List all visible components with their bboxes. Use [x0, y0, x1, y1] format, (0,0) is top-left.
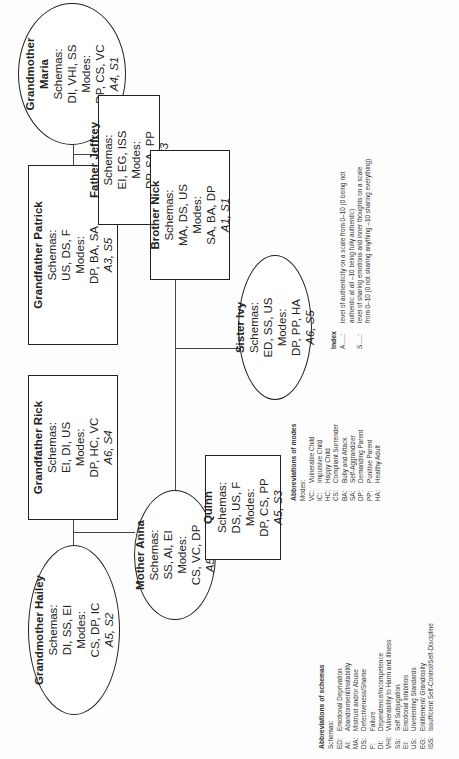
schemas-label: Schemas:: [46, 604, 60, 655]
score-value: A3, S5: [101, 238, 115, 273]
legend-modes: Abbreviations of modes Modes: VC:Vulnera…: [290, 351, 382, 501]
schemas-value: DI, SS, EI: [60, 605, 74, 656]
schemas-label: Schemas:: [45, 229, 59, 280]
legend-row: DS:Defectiveness/Shame: [360, 509, 368, 749]
legend-label: Entitlement/ Grandiosity: [419, 663, 427, 731]
modes-label: Modes:: [275, 309, 289, 347]
legend-label: Compliant Surrender: [332, 424, 340, 483]
member-name: Sister Ivy: [233, 302, 247, 353]
legend-row: AI:Abandonment/Instability: [344, 509, 352, 749]
modes-label: Modes:: [74, 611, 88, 649]
schemas-value: DI, VHI, SS: [65, 45, 79, 104]
modes-value: DP, CS, PP: [257, 478, 271, 537]
schemas-value: SS, AI, EI: [161, 530, 175, 579]
connector-children-ivy: [175, 348, 240, 349]
legend-abbr: MA:: [352, 731, 360, 749]
legend-row: SS:Self Subjugation: [394, 509, 402, 749]
legend-label: Happy Child: [324, 448, 332, 483]
legend-row: US:Unrelenting Standards: [410, 509, 418, 749]
legend-abbr: F:: [369, 731, 377, 749]
legend-abbr: VC:: [308, 483, 316, 501]
connector-patrick-maria: [73, 145, 74, 165]
legend-schemas-title: Abbreviations of schemas: [318, 509, 326, 749]
modes-value: DP, PP, HA: [289, 299, 303, 356]
legend-row: DP:Demanding Parent: [357, 351, 365, 501]
modes-value: DP, BA, SA: [87, 226, 101, 284]
modes-label: Modes:: [79, 55, 93, 93]
legend-row: BA:Bully and Attack: [341, 351, 349, 501]
schemas-value: US, DS, F: [59, 229, 73, 281]
schemas-value: ED, SS, US: [261, 297, 275, 357]
legend-abbr: EI:: [402, 731, 410, 749]
legend-row: CS:Compliant Surrender: [332, 351, 340, 501]
legend-row: SA:Self-Aggrandizer: [349, 351, 357, 501]
legend-label: Issufficient Self-Control/Self-Disciplin…: [427, 623, 435, 731]
legend-row: PP:Punitive Parent: [366, 351, 374, 501]
score-value: A5, S2: [102, 613, 116, 648]
legend-row: ED:Emotional Deprivation: [336, 509, 344, 749]
legend-abbr: AI:: [344, 731, 352, 749]
legend-row: HC:Happy Child: [324, 351, 332, 501]
legend-label: Self-Aggrandizer: [349, 435, 357, 483]
legend-label: Bully and Attack: [341, 438, 349, 483]
member-name: Grandfather Rick: [31, 401, 45, 494]
modes-label: Modes:: [175, 536, 189, 574]
legend-abbr: ED:: [336, 731, 344, 749]
legend-row: EG:Entitlement/ Grandiosity: [419, 509, 427, 749]
member-name: Brother Nick: [148, 180, 162, 249]
schemas-label: Schemas:: [215, 482, 229, 533]
member-name: Grandmother Maria: [23, 34, 51, 114]
score-value: A6, S5: [303, 310, 317, 345]
score-value: A5, S3: [271, 490, 285, 525]
legend-abbr: HC:: [324, 483, 332, 501]
legend-label: Emotional Deprivation: [336, 668, 344, 731]
legend-row: IC:Impulsive Child: [316, 351, 324, 501]
legend-abbr: S.....:: [356, 323, 373, 349]
legend-label: Demanding Parent: [357, 430, 365, 483]
legend-row: A.....:level of authenticity on a scale …: [339, 49, 356, 349]
schemas-label: Schemas:: [247, 302, 261, 353]
legend-abbr: ISS:: [427, 731, 435, 749]
legend-abbr: CS:: [332, 483, 340, 501]
legend-label: Mistrust and/or Abuse: [352, 669, 360, 731]
legend-abbr: VHI:: [385, 731, 393, 749]
legend-label: Self Subjugation: [394, 684, 402, 731]
score-value: A1, S1: [218, 198, 232, 233]
legend-label: Failure: [369, 711, 377, 731]
legend-abbr: DI:: [377, 731, 385, 749]
legend-label: Abandonment/Instability: [344, 663, 352, 731]
legend-abbr: HA:: [374, 483, 382, 501]
score-value: A4, S1: [107, 57, 121, 92]
modes-value: SA, BA, DP: [204, 185, 218, 244]
legend-abbr: EG:: [419, 731, 427, 749]
legend-abbr: DS:: [360, 731, 368, 749]
schemas-label: Schemas:: [162, 189, 176, 240]
legend-modes-subtitle: Modes:: [299, 351, 307, 501]
legend-abbr: DP:: [357, 483, 365, 501]
legend-row: DI:Dependence/Incompetence: [377, 509, 385, 749]
modes-label: Modes:: [129, 141, 143, 179]
legend-label: Impulsive Child: [316, 440, 324, 483]
legend-abbr: SA:: [349, 483, 357, 501]
legend-label: Vulnerability to Harm and Illness: [385, 640, 393, 731]
legend-label: level of authenticity on a scale from 0–…: [339, 172, 356, 323]
legend-row: MA:Mistrust and/or Abuse: [352, 509, 360, 749]
member-quinn: Quinn Schemas: DS, US, F Modes: DP, CS, …: [205, 455, 281, 560]
score-value: A6, S4: [101, 430, 115, 465]
schemas-value: DS, US, F: [229, 482, 243, 534]
schemas-value: MA, DS, US: [176, 184, 190, 246]
legend-abbr: SS:: [394, 731, 402, 749]
legend-row: F:Failure: [369, 509, 377, 749]
modes-value: CS, VC, DP: [189, 525, 203, 586]
member-name: Father Jeffrey: [87, 122, 101, 198]
genogram-page: Grandmother Hailey Schemas: DI, SS, EI M…: [0, 0, 459, 759]
legend-index: Index A.....:level of authenticity on a …: [330, 49, 372, 349]
legend-modes-list: VC:Vulnerable ChildIC:Impulsive ChildHC:…: [308, 351, 383, 501]
modes-label: Modes:: [190, 196, 204, 234]
legend-label: Healthy Adult: [374, 445, 382, 483]
legend-label: Unrelenting Standards: [410, 667, 418, 731]
legend-abbr: PP:: [366, 483, 374, 501]
legend-modes-title: Abbreviations of modes: [290, 351, 298, 501]
legend-label: Emotional Inhibition: [402, 675, 410, 731]
legend-abbr: BA:: [341, 483, 349, 501]
